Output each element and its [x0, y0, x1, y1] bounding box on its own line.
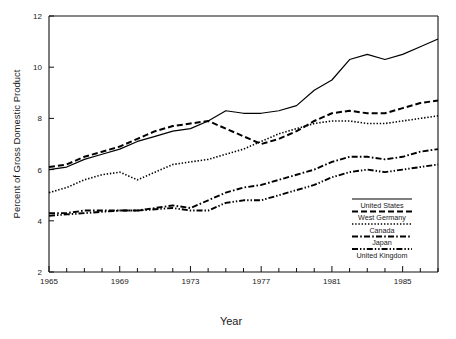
chart-legend: United StatesWest GermanyCanadaJapanUnit… [352, 199, 412, 260]
line-chart: 24681012 196519691973197719811985 Percen… [0, 0, 456, 339]
legend-label: Japan [372, 238, 392, 247]
legend-label: United States [360, 201, 404, 210]
y-tick-label: 6 [38, 166, 43, 175]
legend-label: United Kingdom [356, 251, 407, 260]
x-axis-ticks: 196519691973197719811985 [40, 266, 438, 286]
series-line-united-states [49, 39, 438, 170]
data-series-group [49, 39, 438, 216]
y-axis-title: Percent of Gross Domestic Product [11, 69, 22, 218]
x-tick-label: 1981 [323, 277, 341, 286]
x-tick-label: 1965 [40, 277, 58, 286]
chart-figure: 24681012 196519691973197719811985 Percen… [0, 0, 456, 339]
y-tick-label: 10 [33, 63, 42, 72]
y-axis-ticks: 24681012 [33, 12, 54, 277]
x-axis-title: Year [220, 315, 243, 327]
x-tick-label: 1973 [182, 277, 200, 286]
x-tick-label: 1977 [252, 277, 270, 286]
y-tick-label: 2 [38, 268, 43, 277]
x-tick-label: 1969 [111, 277, 129, 286]
y-tick-label: 12 [33, 12, 42, 21]
series-line-canada [49, 116, 438, 193]
y-tick-label: 4 [38, 217, 43, 226]
legend-label: West Germany [358, 213, 406, 222]
y-tick-label: 8 [38, 114, 43, 123]
legend-label: Canada [369, 226, 394, 235]
series-line-west-germany [49, 100, 438, 167]
x-tick-label: 1985 [394, 277, 412, 286]
